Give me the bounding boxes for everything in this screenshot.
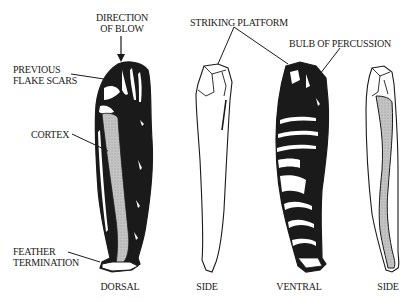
direction-of-blow-line-1: DIRECTION <box>96 12 148 23</box>
feather-termination-label: FEATHER TERMINATION <box>13 246 79 268</box>
striking-platform-leader-2 <box>234 27 288 64</box>
ventral-flake-drawing <box>276 62 329 272</box>
dorsal-flake-drawing <box>95 62 152 272</box>
caption-side-2: SIDE <box>373 281 403 292</box>
cortex-label: CORTEX <box>31 129 69 140</box>
caption-ventral: VENTRAL <box>272 281 326 292</box>
previous-flake-scars-line-2: FLAKE SCARS <box>13 75 77 86</box>
caption-dorsal: DORSAL <box>96 281 144 292</box>
direction-of-blow-line-2: OF BLOW <box>96 23 148 34</box>
bulb-of-percussion-label: BULB OF PERCUSSION <box>289 38 391 49</box>
previous-flake-scars-label: PREVIOUS FLAKE SCARS <box>13 64 77 86</box>
feather-termination-line-2: TERMINATION <box>13 257 79 268</box>
caption-side-1: SIDE <box>192 281 222 292</box>
bulb-of-percussion-leader <box>320 48 340 74</box>
previous-flake-scars-line-1: PREVIOUS <box>13 64 77 75</box>
direction-of-blow-arrow <box>117 36 125 62</box>
direction-of-blow-label: DIRECTION OF BLOW <box>96 12 148 34</box>
striking-platform-leader-1 <box>218 27 234 64</box>
striking-platform-label: STRIKING PLATFORM <box>190 17 288 28</box>
side-1-flake-drawing <box>196 64 232 272</box>
flake-diagram: DIRECTION OF BLOW PREVIOUS FLAKE SCARS C… <box>0 0 414 302</box>
feather-termination-line-1: FEATHER <box>13 246 79 257</box>
side-2-flake-drawing <box>366 66 399 272</box>
